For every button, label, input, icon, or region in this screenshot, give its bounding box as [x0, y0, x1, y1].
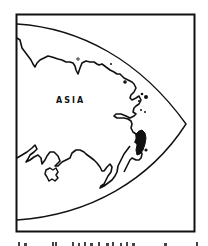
island-dot-9 [77, 58, 79, 60]
map-figure: ASIA [0, 0, 208, 246]
island-southwest [45, 168, 58, 181]
island-dot-4 [138, 100, 140, 102]
coastline-south [17, 145, 130, 188]
island-dot-6 [144, 111, 146, 113]
coastline-north [17, 38, 142, 172]
projection-boundary [17, 24, 186, 220]
region-label-asia: ASIA [56, 96, 85, 105]
island-dot-3 [141, 93, 144, 96]
island-east-large [136, 130, 146, 155]
island-dot-1 [144, 148, 147, 151]
island-dot-2 [144, 95, 148, 99]
island-dot-8 [110, 63, 112, 65]
figure-caption [16, 240, 196, 246]
map-frame [17, 15, 195, 232]
island-dot-5 [140, 109, 142, 111]
map-drawing [0, 0, 208, 246]
island-dot-7 [123, 80, 127, 84]
